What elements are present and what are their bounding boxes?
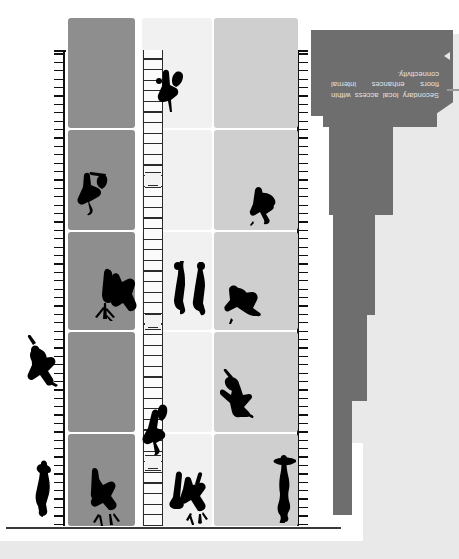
figure-standing-a4 (247, 180, 277, 226)
figure-with-tree-c3 (85, 265, 139, 321)
building-mass-base (329, 125, 393, 215)
west-wall-hatching (299, 51, 308, 525)
figure-walking-b5 (156, 65, 186, 113)
rotated-drawing-group: Secondary local access within floors enh… (0, 0, 459, 559)
figure-on-stair-b2 (140, 397, 170, 457)
east-wall-line (63, 50, 65, 526)
stair-landing-1 (145, 455, 161, 471)
west-wall-end-cap (297, 50, 308, 52)
plan-cell-c5 (68, 18, 135, 128)
background-clear-upper-right (0, 529, 363, 541)
background-notch-left (423, 0, 459, 34)
building-mass-shaft (333, 399, 352, 515)
callout-text: Secondary local access within floors enh… (331, 68, 439, 100)
annotation-callout: Secondary local access within floors enh… (311, 30, 453, 116)
building-mass-mid (333, 313, 367, 401)
figure-seated-c4 (73, 169, 109, 217)
stair-landing-2 (145, 314, 161, 330)
figure-leaning-east-2 (23, 335, 59, 389)
triangle-marker-icon (444, 52, 450, 60)
figure-pair-b3 (170, 261, 210, 317)
east-wall-end-cap (54, 50, 66, 52)
stair-landing-3 (145, 172, 161, 188)
figure-standing-east-1 (31, 457, 53, 517)
plan-cell-a5 (214, 18, 298, 128)
figure-group-b1 (164, 463, 212, 525)
floor-plan-canvas: Secondary local access within floors enh… (0, 0, 459, 559)
figure-planted-c1 (83, 466, 123, 526)
building-mass-lower (333, 213, 375, 315)
figure-standing-a1 (272, 451, 296, 523)
east-wall-hatching (54, 51, 63, 525)
figure-seated-a2 (220, 369, 256, 419)
figure-crouching-a3 (221, 282, 263, 324)
plan-cell-c2 (68, 332, 135, 432)
callout-leader-line (447, 90, 459, 92)
background-band-mid (363, 441, 425, 559)
